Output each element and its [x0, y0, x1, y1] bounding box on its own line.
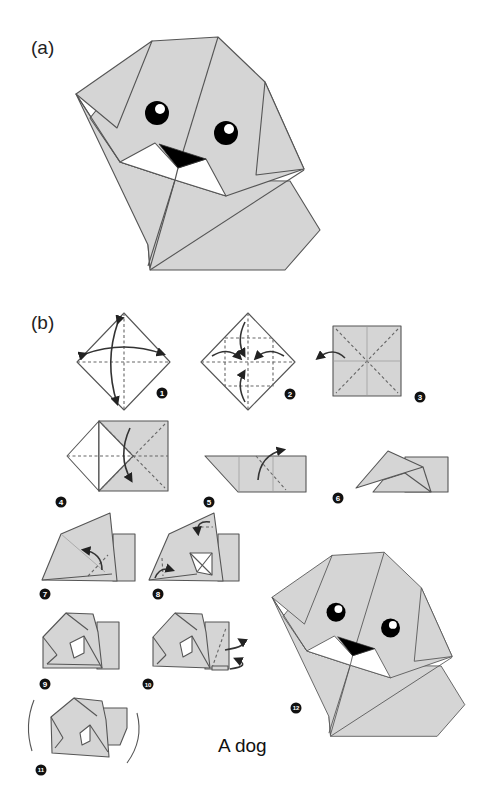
step-number-3: 3: [415, 392, 426, 403]
svg-text:11: 11: [38, 767, 45, 773]
svg-text:12: 12: [293, 705, 300, 711]
svg-text:3: 3: [418, 393, 423, 402]
svg-text:1: 1: [160, 389, 165, 398]
step-2-diagram: [201, 313, 295, 410]
svg-text:7: 7: [43, 590, 48, 599]
svg-text:10: 10: [145, 682, 152, 688]
step-4-diagram: [67, 421, 168, 491]
step-number-8: 8: [153, 589, 164, 600]
step-number-10: 10: [143, 679, 154, 690]
dog-illustration-large: [76, 37, 320, 270]
svg-text:2: 2: [288, 390, 293, 399]
step-1-diagram: [77, 313, 170, 410]
svg-text:6: 6: [336, 494, 341, 503]
step-number-5: 5: [204, 497, 215, 508]
step-number-1: 1: [157, 388, 168, 399]
step-number-11: 11: [36, 765, 47, 776]
step-10-diagram: [153, 613, 243, 670]
step-9-diagram: [43, 613, 119, 669]
step-11-diagram: [28, 698, 139, 763]
origami-diagram: 1 2 3 4 5 6 7 8 9 10 11 12: [0, 0, 479, 796]
svg-text:5: 5: [207, 498, 212, 507]
step-6-diagram: [356, 451, 448, 492]
svg-text:9: 9: [43, 680, 48, 689]
step-8-diagram: [149, 513, 239, 581]
step-number-7: 7: [40, 589, 51, 600]
svg-text:4: 4: [59, 498, 64, 507]
step-number-6: 6: [333, 493, 344, 504]
step-number-4: 4: [56, 497, 67, 508]
step-5-diagram: [205, 450, 306, 492]
step-number-12: 12: [291, 703, 302, 714]
step-3-diagram: [318, 326, 401, 396]
svg-text:8: 8: [156, 590, 161, 599]
step-number-9: 9: [40, 679, 51, 690]
step-7-diagram: [42, 513, 135, 581]
step-number-2: 2: [285, 389, 296, 400]
